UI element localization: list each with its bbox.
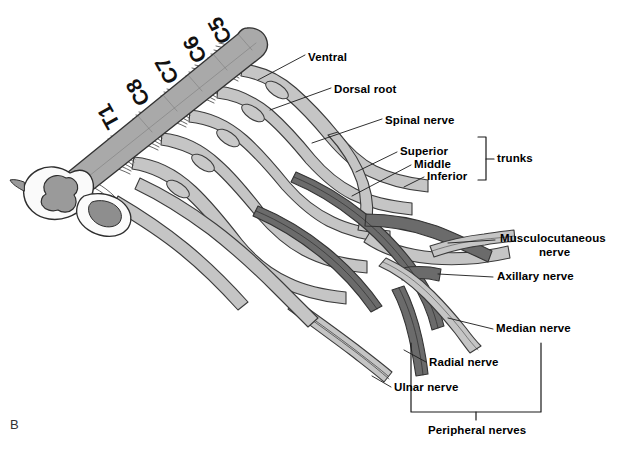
label-spinal-nerve: Spinal nerve — [385, 114, 455, 126]
label-peripheral-nerves: Peripheral nerves — [428, 424, 526, 436]
label-ventral: Ventral — [308, 51, 347, 63]
label-middle-trunk: Middle — [414, 158, 451, 170]
label-axillary-nerve: Axillary nerve — [497, 270, 574, 282]
label-trunks: trunks — [497, 152, 533, 164]
anatomical-illustration — [0, 0, 621, 451]
brachial-plexus-figure: C5 C6 C7 C8 T1 Ventral Dorsal root Spina… — [0, 0, 621, 451]
figure-letter: B — [10, 417, 19, 432]
label-superior-trunk: Superior — [400, 145, 448, 157]
label-musculocutaneous-nerve: Musculocutaneous — [500, 232, 606, 244]
label-radial-nerve: Radial nerve — [429, 356, 499, 368]
spinal-cord-cross-section — [10, 167, 131, 237]
label-inferior-trunk: Inferior — [427, 170, 467, 182]
label-median-nerve: Median nerve — [496, 322, 571, 334]
trunks-bracket-shape — [478, 137, 494, 180]
label-ulnar-nerve: Ulnar nerve — [394, 381, 458, 393]
label-dorsal-root: Dorsal root — [334, 83, 396, 95]
label-musculocutaneous-nerve-second-line: nerve — [539, 246, 570, 258]
